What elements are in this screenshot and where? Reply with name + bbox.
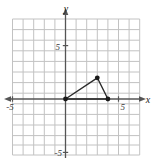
graph-canvas: x y -5 5 5 -5 bbox=[0, 0, 159, 162]
vertex-origin-marker bbox=[63, 97, 68, 102]
x-axis-tick-negative-five: -5 bbox=[6, 102, 14, 112]
y-axis-tick-negative-five: -5 bbox=[55, 148, 63, 158]
x-axis-tick-positive-five: 5 bbox=[121, 102, 126, 112]
coordinate-plane-figure: x y -5 5 5 -5 bbox=[0, 0, 159, 162]
vertex-right-marker bbox=[106, 97, 111, 102]
y-axis-tick-positive-five: 5 bbox=[56, 42, 61, 52]
x-axis-label: x bbox=[145, 94, 151, 105]
grid-lines-vertical bbox=[13, 19, 140, 155]
y-axis-label: y bbox=[63, 3, 69, 14]
vertex-top-marker bbox=[95, 75, 100, 80]
